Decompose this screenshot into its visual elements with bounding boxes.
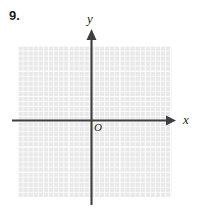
graph-figure: 9. y x O [0,0,199,217]
problem-number-label: 9. [9,9,20,22]
x-axis-label: x [183,113,189,126]
origin-label: O [94,122,102,133]
y-axis-arrowhead [87,29,97,40]
y-axis-label: y [87,12,93,25]
